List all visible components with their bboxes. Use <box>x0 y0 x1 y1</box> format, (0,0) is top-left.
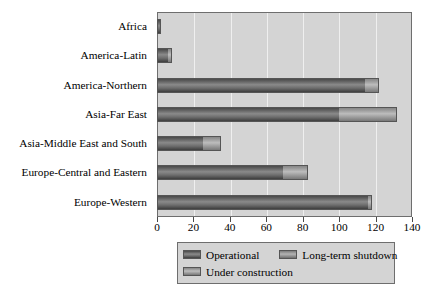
x-tick-label: 0 <box>154 221 160 233</box>
bar-segment <box>157 48 168 63</box>
stacked-bar <box>157 78 379 93</box>
x-tick-label: 80 <box>297 221 308 233</box>
chart-legend: Operational Long-term shutdown Under con… <box>177 242 395 284</box>
x-tick-label: 140 <box>404 221 421 233</box>
stacked-bar <box>157 195 372 210</box>
stacked-bar-chart: AfricaAmerica-LatinAmerica-NorthernAsia-… <box>0 0 438 295</box>
x-axis-tick-labels: 020406080100120140 <box>157 221 412 237</box>
x-tick-label: 100 <box>331 221 348 233</box>
bar-row <box>157 41 412 70</box>
stacked-bar <box>157 165 308 180</box>
stacked-bar <box>157 48 172 63</box>
legend-swatch-underconstruction-icon <box>183 267 201 276</box>
bar-row <box>157 129 412 158</box>
legend-entry-longterm: Long-term shutdown <box>279 249 397 261</box>
bar-row <box>157 12 412 41</box>
bars-layer <box>157 12 412 217</box>
bar-segment <box>157 136 203 151</box>
legend-label-longterm: Long-term shutdown <box>302 249 397 261</box>
bar-segment <box>157 107 339 122</box>
bar-segment <box>157 78 365 93</box>
x-tick-label: 20 <box>188 221 199 233</box>
bar-segment <box>203 136 221 151</box>
bar-segment <box>368 195 372 210</box>
legend-entry-underconstruction: Under construction <box>183 266 293 278</box>
category-label: Europe-Central and Eastern <box>22 158 147 187</box>
stacked-bar <box>157 19 161 34</box>
bar-segment <box>283 165 309 180</box>
category-axis-labels: AfricaAmerica-LatinAmerica-NorthernAsia-… <box>0 12 152 217</box>
legend-swatch-operational-icon <box>183 250 201 259</box>
bar-segment <box>365 78 380 93</box>
legend-entry-operational: Operational <box>183 249 259 261</box>
bar-segment <box>339 107 397 122</box>
x-tick-label: 120 <box>367 221 384 233</box>
bar-segment <box>157 195 368 210</box>
legend-label-underconstruction: Under construction <box>206 266 293 278</box>
legend-swatch-longterm-icon <box>279 250 297 259</box>
bar-row <box>157 158 412 187</box>
bar-segment <box>157 19 161 34</box>
stacked-bar <box>157 107 397 122</box>
bar-row <box>157 188 412 217</box>
bar-row <box>157 100 412 129</box>
bar-segment <box>168 48 172 63</box>
category-label: Africa <box>118 12 147 41</box>
legend-label-operational: Operational <box>206 249 259 261</box>
bar-segment <box>157 165 283 180</box>
stacked-bar <box>157 136 221 151</box>
category-label: America-Northern <box>64 71 147 100</box>
bar-row <box>157 71 412 100</box>
category-label: Europe-Western <box>74 188 147 217</box>
legend-row: Under construction <box>183 263 389 280</box>
x-tick-label: 60 <box>261 221 272 233</box>
category-label: America-Latin <box>81 41 148 70</box>
x-tick-label: 40 <box>224 221 235 233</box>
category-label: Asia-Far East <box>85 100 147 129</box>
category-label: Asia-Middle East and South <box>19 129 147 158</box>
legend-row: Operational Long-term shutdown <box>183 246 389 263</box>
